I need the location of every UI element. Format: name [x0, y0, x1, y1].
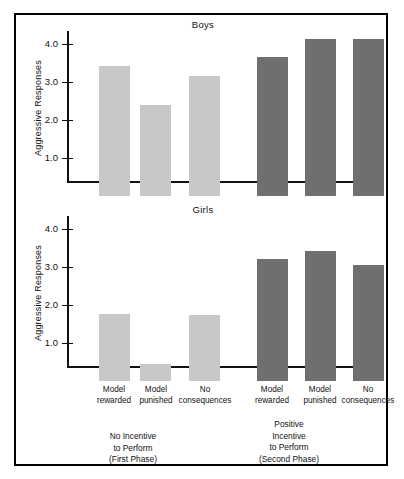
phase-second-line3: to Perform — [214, 442, 364, 454]
y-tick-label-girls-4: 4.0 — [28, 224, 58, 234]
phase-first-line3: (First Phase) — [58, 454, 208, 466]
x-label-5-line1: No — [331, 385, 404, 396]
phase-second-line2: Incentive — [214, 431, 364, 443]
bar-boys-1 — [140, 105, 171, 196]
y-tick-label-girls-1: 1.0 — [28, 338, 58, 348]
x-label-5-line2: consequences — [331, 396, 404, 407]
phase-labels: No Incentive to Perform (First Phase) Po… — [36, 419, 376, 469]
panel-title-boys: Boys — [16, 19, 390, 30]
bar-boys-3 — [257, 57, 288, 196]
y-axis-line-boys — [67, 31, 69, 183]
y-tick-label-boys-3: 3.0 — [28, 77, 58, 87]
x-label-2-line2: consequences — [168, 396, 242, 407]
phase-second-line1: Positive — [214, 419, 364, 431]
x-axis-labels: Model rewarded Model punished No consequ… — [67, 385, 387, 409]
plot-area-girls: 4.0 3.0 2.0 1.0 — [67, 216, 377, 368]
y-axis-line-girls — [67, 216, 69, 368]
y-tick-label-boys-4: 4.0 — [28, 39, 58, 49]
phase-second-line4: (Second Phase) — [214, 454, 364, 466]
bar-girls-0 — [99, 314, 130, 381]
phase-first-line2: to Perform — [58, 443, 208, 455]
chart-frame: Boys Aggressive Responses 4.0 3.0 2.0 1.… — [14, 13, 388, 466]
panel-boys: Boys Aggressive Responses 4.0 3.0 2.0 1.… — [16, 15, 390, 205]
phase-label-first: No Incentive to Perform (First Phase) — [58, 431, 208, 466]
panel-girls: Girls Aggressive Responses 4.0 3.0 2.0 1… — [16, 200, 390, 390]
bar-girls-3 — [257, 259, 288, 381]
y-axis-label-girls: Aggressive Responses — [33, 233, 43, 353]
bar-boys-2 — [189, 76, 220, 196]
plot-area-boys: 4.0 3.0 2.0 1.0 — [67, 31, 377, 183]
y-tick-label-boys-1: 1.0 — [28, 153, 58, 163]
y-axis-label-boys: Aggressive Responses — [33, 48, 43, 168]
bar-girls-2 — [189, 315, 220, 382]
bar-boys-5 — [353, 39, 384, 196]
phase-label-second: Positive Incentive to Perform (Second Ph… — [214, 419, 364, 465]
bar-girls-5 — [353, 265, 384, 381]
phase-first-line1: No Incentive — [58, 431, 208, 443]
y-tick-label-boys-2: 2.0 — [28, 115, 58, 125]
bar-boys-4 — [305, 39, 336, 196]
bar-boys-0 — [99, 66, 130, 196]
bar-girls-4 — [305, 251, 336, 381]
y-tick-label-girls-2: 2.0 — [28, 300, 58, 310]
x-label-5: No consequences — [331, 385, 404, 406]
panel-title-girls: Girls — [16, 204, 390, 215]
bar-girls-1 — [140, 364, 171, 381]
y-tick-label-girls-3: 3.0 — [28, 262, 58, 272]
x-label-2-line1: No — [168, 385, 242, 396]
x-label-2: No consequences — [168, 385, 242, 406]
